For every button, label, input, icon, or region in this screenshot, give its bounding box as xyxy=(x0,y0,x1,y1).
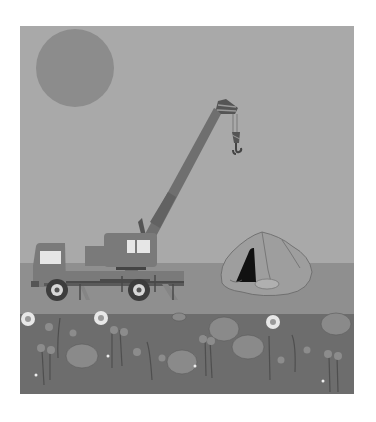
wheel-front xyxy=(46,279,68,301)
sun xyxy=(36,29,114,107)
flower-cluster xyxy=(209,317,239,341)
daisy xyxy=(266,315,280,329)
flower-cluster xyxy=(232,335,264,359)
flower-cluster xyxy=(66,344,98,368)
flower-cluster xyxy=(172,313,186,321)
flower-cluster xyxy=(167,350,197,374)
wheel-rear xyxy=(128,279,150,301)
daisy xyxy=(94,311,108,325)
flower-cluster xyxy=(321,313,351,335)
daisy xyxy=(21,312,35,326)
scene-illustration xyxy=(0,0,376,422)
